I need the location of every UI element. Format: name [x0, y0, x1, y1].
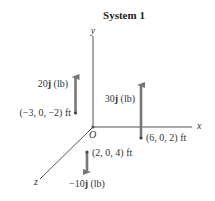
z-axis-label: z [33, 176, 38, 187]
force-system-diagram: System 1 y x z O 20j (lb) (−3, 0, −2) ft… [0, 0, 215, 201]
y-axis-label: y [90, 25, 96, 36]
force-label: −10j (lb) [69, 178, 105, 190]
position-label: (−3, 0, −2) ft [19, 107, 71, 119]
coordinate-axes: y x z O [33, 25, 202, 187]
application-point [74, 111, 77, 114]
x-axis-label: x [196, 120, 202, 131]
diagram-title: System 1 [103, 9, 145, 21]
position-label: (2, 0, 4) ft [92, 147, 132, 159]
force-20j: 20j (lb) (−3, 0, −2) ft [19, 77, 77, 119]
z-axis [40, 127, 93, 179]
force-label: 30j (lb) [105, 93, 135, 105]
position-label: (6, 0, 2) ft [146, 132, 186, 144]
force-neg10j: (2, 0, 4) ft −10j (lb) [69, 147, 132, 190]
force-label: 20j (lb) [38, 78, 68, 90]
force-30j: 30j (lb) (6, 0, 2) ft [105, 85, 187, 144]
application-point [85, 150, 88, 153]
origin-label: O [89, 129, 96, 140]
application-point [139, 136, 142, 139]
